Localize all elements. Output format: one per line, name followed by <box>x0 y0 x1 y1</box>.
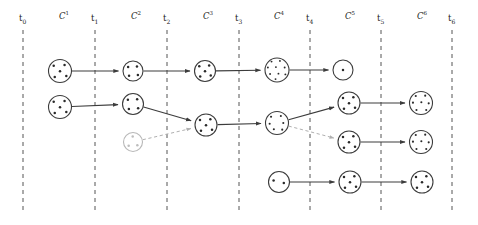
data-point-n_r3_t4-2 <box>348 141 351 144</box>
data-point-n_r4_t2-0 <box>272 179 275 182</box>
data-point-n_r2_t5-3 <box>420 101 422 103</box>
cluster-boundary-n_r4_t2 <box>269 172 290 193</box>
time-label-t0: t0 <box>19 13 26 25</box>
time-label-t5: t5 <box>377 13 384 25</box>
data-point-n_r2_t0-4 <box>65 111 68 114</box>
data-point-n_r1_t0-3 <box>54 76 57 79</box>
data-point-n_r2_t5-4 <box>428 102 430 104</box>
data-point-n_r4_t3-3 <box>344 186 347 189</box>
data-point-n_r3_t1-2 <box>136 144 139 147</box>
data-point-n_r3_t5-4 <box>428 141 430 143</box>
data-point-n_r1_t0-2 <box>59 70 62 73</box>
data-point-n_r1_t2-3 <box>199 75 202 78</box>
data-point-n_r4_t4-0 <box>415 176 418 179</box>
data-point-n_r1_t4-0 <box>342 69 345 72</box>
data-point-n_r2_t5-2 <box>412 102 414 104</box>
data-point-n_r2_t1-0 <box>127 99 130 102</box>
cluster-node-n_r4_t3 <box>339 171 361 193</box>
diagram-canvas: t0t1t2t3t4t5t6C1C2C3C4C5C6 <box>0 0 478 225</box>
data-point-n_r2_t3-2 <box>269 123 271 125</box>
data-point-n_r4_t4-4 <box>427 185 430 188</box>
cluster-node-n_r3_t1 <box>124 133 143 152</box>
data-point-n_r2_t3-4 <box>273 128 275 130</box>
data-point-n_r1_t3-6 <box>278 73 280 75</box>
data-point-n_r1_t1-1 <box>136 65 139 68</box>
data-point-n_r2_t1-1 <box>136 98 139 101</box>
data-point-n_r1_t2-2 <box>204 70 207 73</box>
clustering-label-C3: C3 <box>203 10 213 21</box>
data-point-n_r2_t0-1 <box>63 100 66 103</box>
time-label-t3: t3 <box>235 13 242 25</box>
data-point-n_r3_t5-3 <box>420 140 422 142</box>
data-point-n_r2_t3-5 <box>281 129 283 131</box>
data-point-n_r2_t2-2 <box>205 124 208 127</box>
cluster-node-n_r2_t0 <box>49 96 72 119</box>
data-point-n_r3_t1-1 <box>127 145 130 148</box>
clustering-label-C4: C4 <box>274 10 284 21</box>
timeline-axes <box>23 30 452 214</box>
data-point-n_r4_t3-0 <box>343 176 346 179</box>
data-point-n_r2_t3-3 <box>282 122 284 124</box>
cluster-node-n_r4_t4 <box>411 171 433 193</box>
data-point-n_r1_t0-1 <box>63 64 66 67</box>
data-point-n_r2_t3-1 <box>280 115 282 117</box>
data-point-n_r4_t4-1 <box>425 175 428 178</box>
data-point-n_r2_t0-0 <box>52 101 55 104</box>
data-point-n_r2_t5-5 <box>415 109 417 111</box>
data-point-n_r3_t4-4 <box>354 145 357 148</box>
data-point-n_r1_t3-0 <box>271 61 273 63</box>
cluster-boundary-n_r2_t1 <box>123 94 144 115</box>
data-point-n_r1_t3-4 <box>284 67 286 69</box>
data-point-n_r1_t0-0 <box>52 65 55 68</box>
cluster-node-n_r2_t1 <box>123 94 144 115</box>
data-point-n_r2_t4-0 <box>342 97 345 100</box>
data-point-n_r2_t2-3 <box>200 129 203 132</box>
data-point-n_r3_t4-1 <box>352 135 355 138</box>
time-label-t1: t1 <box>91 13 98 25</box>
data-point-n_r1_t3-3 <box>275 66 277 68</box>
cluster-node-n_r2_t2 <box>195 114 217 136</box>
transition-edge-e7-dashed <box>143 129 191 140</box>
cluster-nodes <box>49 58 434 193</box>
time-label-t4: t4 <box>306 13 313 25</box>
data-point-n_r3_t5-5 <box>415 148 417 150</box>
cluster-node-n_r2_t3 <box>266 112 289 135</box>
data-point-n_r2_t3-0 <box>270 116 272 118</box>
data-point-n_r3_t1-0 <box>131 135 134 138</box>
data-point-n_r4_t3-1 <box>353 175 356 178</box>
data-point-n_r1_t2-1 <box>208 64 211 67</box>
data-point-n_r1_t3-5 <box>269 73 271 75</box>
data-point-n_r2_t0-2 <box>59 106 62 109</box>
data-point-n_r3_t4-0 <box>342 136 345 139</box>
clustering-label-C1: C1 <box>59 10 69 21</box>
transition-edge-e10-dashed <box>289 126 334 138</box>
clustering-label-C2: C2 <box>131 10 141 21</box>
cluster-node-n_r1_t4 <box>333 60 353 80</box>
data-point-n_r2_t2-0 <box>199 119 202 122</box>
cluster-node-n_r1_t1 <box>123 61 143 81</box>
data-point-n_r2_t5-0 <box>415 95 417 97</box>
clustering-label-C5: C5 <box>345 10 355 21</box>
data-point-n_r1_t1-2 <box>128 75 131 78</box>
data-point-n_r2_t2-1 <box>209 118 212 121</box>
data-point-n_r4_t4-3 <box>416 186 419 189</box>
cluster-boundary-n_r1_t3 <box>265 58 289 82</box>
time-label-t2: t2 <box>163 13 170 25</box>
data-point-n_r1_t3-2 <box>267 67 269 69</box>
transition-edge-e9-solid <box>289 107 335 120</box>
data-point-n_r1_t1-0 <box>127 66 130 69</box>
data-point-n_r1_t3-7 <box>284 73 286 75</box>
cluster-node-n_r4_t2 <box>269 172 290 193</box>
data-point-n_r1_t1-3 <box>137 74 140 77</box>
data-point-n_r3_t4-3 <box>343 146 346 149</box>
data-point-n_r2_t5-6 <box>425 109 427 111</box>
time-label-t6: t6 <box>448 13 455 25</box>
data-point-n_r1_t3-8 <box>275 78 277 80</box>
data-point-n_r2_t5-1 <box>424 95 426 97</box>
data-point-n_r1_t2-0 <box>198 65 201 68</box>
data-point-n_r4_t3-4 <box>355 185 358 188</box>
data-point-n_r4_t2-1 <box>283 182 286 185</box>
data-point-n_r3_t5-6 <box>425 148 427 150</box>
cluster-node-n_r1_t0 <box>49 60 72 83</box>
data-point-n_r3_t5-2 <box>412 141 414 143</box>
